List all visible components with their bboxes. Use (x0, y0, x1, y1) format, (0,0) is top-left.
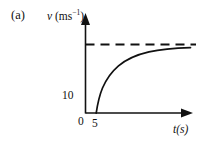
y-axis-unit-open: (ms (52, 10, 72, 22)
panel-label: (a) (11, 9, 25, 22)
graph-canvas (0, 0, 218, 143)
y-axis-tick-label-10: 10 (62, 90, 74, 102)
velocity-time-graph-figure: (a) v (ms−1) t(s) 10 0 5 (0, 0, 218, 143)
velocity-curve (96, 48, 190, 114)
x-axis-arrowhead-icon (181, 109, 193, 118)
y-axis-unit-close: ) (80, 10, 84, 22)
origin-label: 0 (78, 116, 84, 128)
x-axis-label: t(s) (173, 124, 188, 136)
y-axis-label: v (ms−1) (47, 11, 84, 23)
x-axis-tick-label-5: 5 (92, 118, 98, 130)
